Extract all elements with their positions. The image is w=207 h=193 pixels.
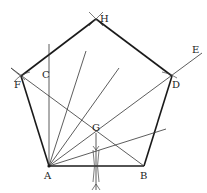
pentagon-construction-diagram: A B C D E F G H: [0, 0, 207, 193]
side-fa: [21, 76, 49, 166]
diagonal-fb: [11, 68, 144, 166]
construction-lines: [11, 44, 202, 190]
side-dh: [96, 19, 172, 76]
point-a-dot: [47, 164, 50, 167]
side-bd: [144, 76, 172, 166]
label-f: F: [14, 79, 21, 90]
label-c: C: [42, 69, 50, 80]
ray-ae: [49, 53, 202, 166]
ray-a-3: [49, 129, 166, 166]
label-a: A: [43, 170, 52, 181]
labels: A B C D E F G H: [14, 13, 199, 181]
arc-marks: [11, 12, 177, 190]
label-h: H: [100, 13, 109, 24]
label-b: B: [140, 170, 147, 181]
ray-a-1: [49, 51, 86, 166]
ray-a-2: [49, 68, 119, 166]
side-hf: [21, 19, 96, 76]
label-g: G: [92, 122, 100, 133]
label-e: E: [192, 44, 199, 55]
label-d: D: [172, 79, 180, 90]
